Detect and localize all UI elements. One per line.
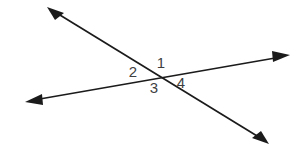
angle-label-4: 4 [177,74,185,91]
diagram-background [0,0,304,147]
angle-label-3: 3 [150,79,158,96]
angle-diagram-figure: Two intersecting lines with four numbere… [0,0,304,147]
diagram-canvas: Two intersecting lines with four numbere… [0,0,304,147]
angle-label-1: 1 [157,54,165,71]
angle-label-2: 2 [129,63,137,80]
